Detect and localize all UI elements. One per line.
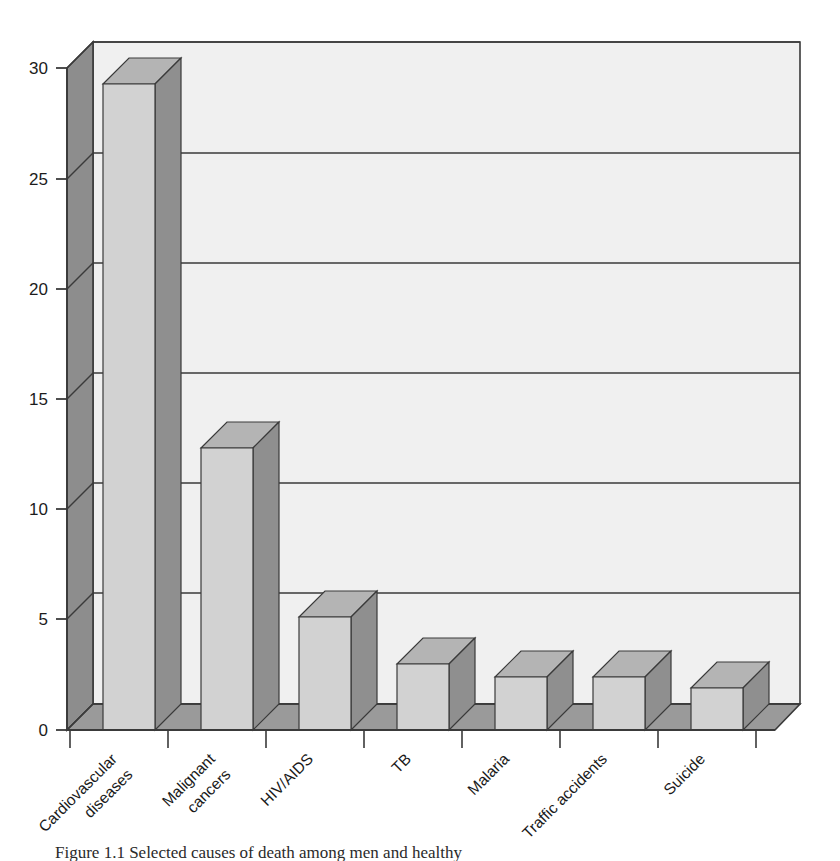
bar-front-face	[299, 617, 351, 730]
bar-tb[interactable]	[397, 638, 475, 730]
bar-side-face	[253, 422, 279, 730]
ytick-label-10: 10	[29, 500, 48, 519]
ytick-label-0: 0	[39, 721, 48, 740]
ytick-label-5: 5	[39, 610, 48, 629]
bar-front-face	[593, 677, 645, 730]
bar-side-face	[155, 58, 181, 730]
bar-front-face	[495, 677, 547, 730]
bar-front-face	[103, 84, 155, 730]
bar-front-face	[201, 448, 253, 730]
bar-malignant-cancers[interactable]	[201, 422, 279, 730]
figure-container: to adult mortality levels is less than i…	[0, 0, 840, 861]
bar-front-face	[691, 688, 743, 730]
ytick-label-15: 15	[29, 390, 48, 409]
figure-caption: Figure 1.1 Selected causes of death amon…	[55, 843, 462, 861]
ytick-label-25: 25	[29, 170, 48, 189]
bar-hiv-aids[interactable]	[299, 591, 377, 730]
ytick-label-30: 30	[29, 59, 48, 78]
ytick-label-20: 20	[29, 280, 48, 299]
bar-chart-3d: to adult mortality levels is less than i…	[0, 0, 840, 861]
figure-caption-text: Figure 1.1 Selected causes of death amon…	[55, 843, 462, 861]
bar-cardiovascular-diseases[interactable]	[103, 58, 181, 730]
bar-front-face	[397, 664, 449, 730]
